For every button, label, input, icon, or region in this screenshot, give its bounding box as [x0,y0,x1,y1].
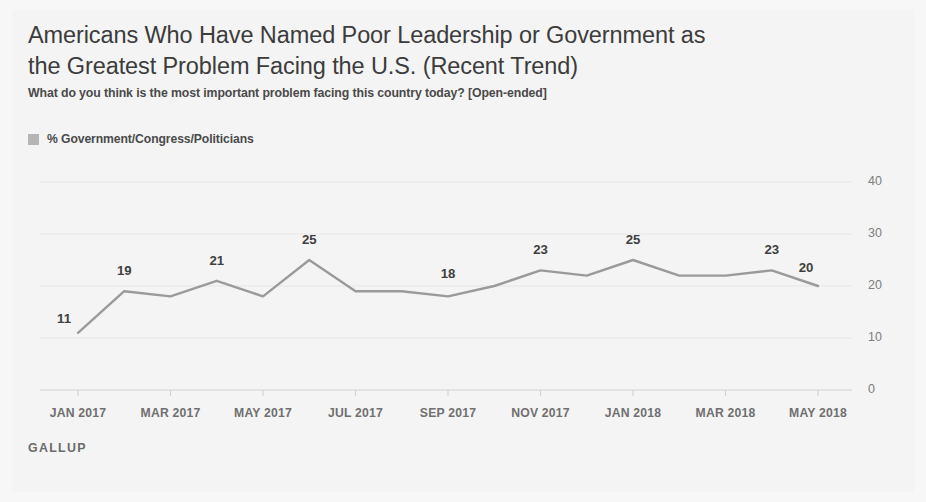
chart-subtitle: What do you think is the most important … [28,85,788,101]
chart-footer-brand: GALLUP [28,441,87,455]
legend-swatch-icon [28,134,39,145]
chart-title: Americans Who Have Named Poor Leadership… [28,20,728,82]
chart-inner-panel [12,10,914,492]
chart-legend: % Government/Congress/Politicians [28,132,254,146]
legend-label: % Government/Congress/Politicians [47,132,254,146]
chart-card: Americans Who Have Named Poor Leadership… [0,0,926,502]
